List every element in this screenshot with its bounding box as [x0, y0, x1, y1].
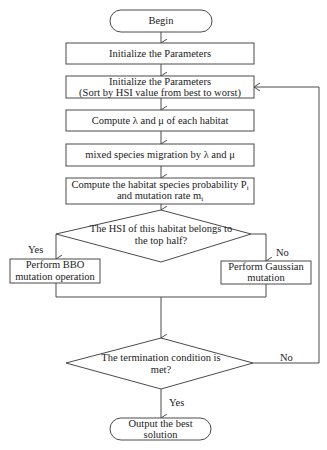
decision1-label-line2: the top half?	[76, 235, 246, 247]
step-sort-label-line2: (Sort by HSI value from best to worst)	[66, 87, 254, 99]
branch-bbo-label-line1: Perform BBO	[10, 259, 100, 271]
step-migration-label: mixed species migration by λ and μ	[66, 149, 254, 161]
end-label-line2: solution	[110, 429, 211, 441]
connector-decision1-no	[251, 234, 266, 261]
decision2-label-line2: met?	[86, 364, 236, 376]
decision1-yes-label: Yes	[28, 244, 43, 256]
flowchart: Begin Initialize the Parameters Initiali…	[0, 0, 327, 450]
mutation-rate-text: and mutation rate m	[117, 190, 201, 201]
probability-text: Compute the habitat species probability …	[71, 179, 246, 190]
step-probability-label-line2: and mutation rate mi	[66, 190, 254, 205]
decision2-no-label: No	[280, 352, 293, 364]
begin-label: Begin	[110, 15, 212, 27]
step-compute-rates-label: Compute λ and μ of each habitat	[66, 115, 254, 127]
decision2-label-line1: The termination condition is	[86, 352, 236, 364]
connector-merge	[56, 283, 266, 297]
connector-decision2-no-loop	[253, 87, 319, 363]
branch-gaussian-label-line2: mutation	[221, 272, 311, 284]
decision1-no-label: No	[276, 247, 289, 259]
step-init-label: Initialize the Parameters	[66, 48, 254, 60]
mutation-rate-subscript: i	[201, 195, 203, 203]
decision2-yes-label: Yes	[169, 397, 184, 409]
branch-bbo-label-line2: mutation operation	[10, 271, 100, 283]
decision1-label-line1: The HSI of this habitat belongs to	[76, 223, 246, 235]
